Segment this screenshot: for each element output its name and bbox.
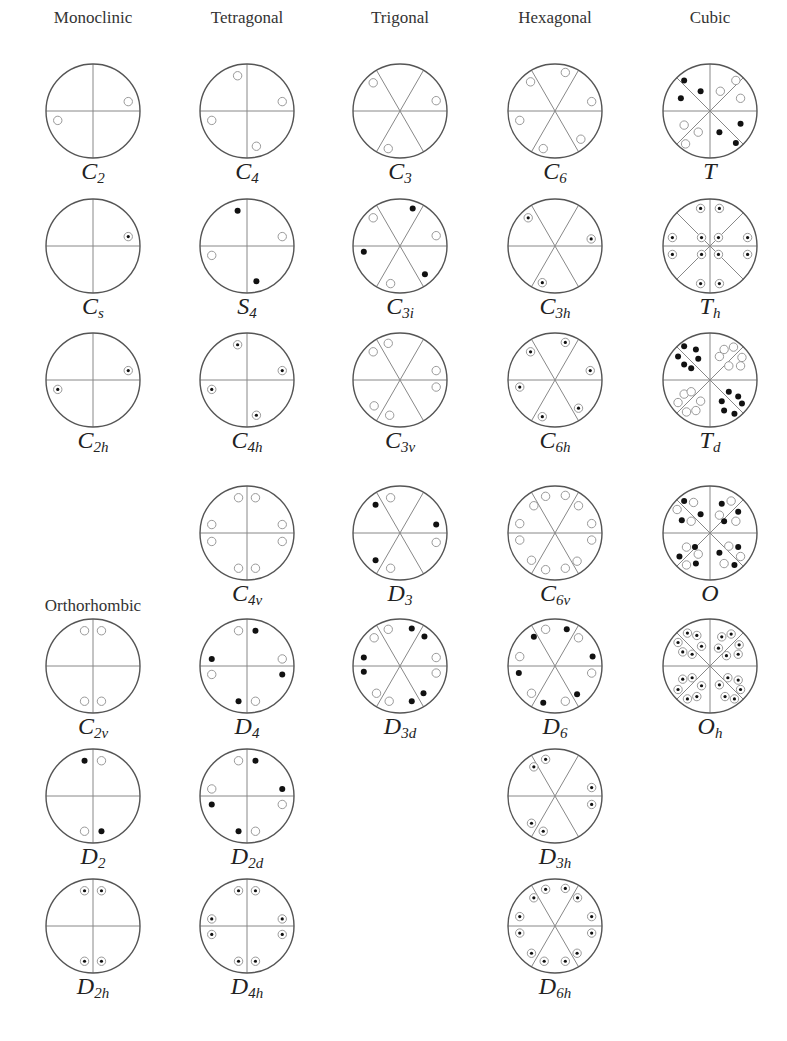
stereogram-circle-icon: [500, 741, 610, 851]
label-subscript: 3: [404, 170, 412, 186]
stereogram-circle-icon: [192, 871, 302, 981]
label-symbol: S: [237, 293, 249, 319]
stereogram-c2h: C2h: [38, 325, 148, 475]
label-symbol: D: [81, 843, 98, 869]
stereogram-c3i: C3i: [345, 191, 455, 341]
heading-hexagonal: Hexagonal: [518, 8, 592, 28]
stereogram-circle-icon: [192, 741, 302, 851]
stereogram-circle-icon: [345, 325, 455, 435]
label-symbol: C: [385, 427, 401, 453]
label-subscript: 6v: [556, 592, 570, 608]
stereogram-d2d: D2d: [192, 741, 302, 891]
heading-trigonal: Trigonal: [371, 8, 429, 28]
stereogram-td: Td: [655, 325, 765, 475]
label-subscript: 4: [251, 170, 259, 186]
stereogram-circle-icon: [38, 611, 148, 721]
label-symbol: C: [231, 427, 247, 453]
label-symbol: C: [232, 580, 248, 606]
point-group-label: C2v: [38, 713, 148, 742]
stereogram-c3v: C3v: [345, 325, 455, 475]
stereogram-d4: D4: [192, 611, 302, 761]
stereogram-circle-icon: [655, 325, 765, 435]
label-symbol: C: [386, 293, 402, 319]
heading-tetragonal: Tetragonal: [211, 8, 283, 28]
point-group-label: C6v: [500, 580, 610, 609]
point-group-label: C4v: [192, 580, 302, 609]
label-subscript: 3h: [556, 855, 571, 871]
label-subscript: 4v: [248, 592, 262, 608]
stereogram-d3h: D3h: [500, 741, 610, 891]
point-group-label: Cs: [38, 293, 148, 322]
heading-cubic: Cubic: [690, 8, 731, 28]
stereogram-circle-icon: [38, 871, 148, 981]
stereogram-c4: C4: [192, 56, 302, 206]
stereogram-circle-icon: [38, 325, 148, 435]
label-symbol: C: [235, 158, 251, 184]
label-symbol: D: [231, 843, 248, 869]
label-symbol: D: [543, 713, 560, 739]
label-subscript: h: [715, 725, 723, 741]
label-subscript: 3v: [401, 439, 415, 455]
point-group-label: C4: [192, 158, 302, 187]
label-subscript: 3d: [401, 725, 416, 741]
point-group-label: D6: [500, 713, 610, 742]
label-subscript: 2: [97, 170, 105, 186]
label-symbol: C: [388, 158, 404, 184]
label-symbol: D: [539, 973, 556, 999]
point-group-label: S4: [192, 293, 302, 322]
point-group-label: C3h: [500, 293, 610, 322]
point-group-label: D2d: [192, 843, 302, 872]
stereogram-circle-icon: [345, 611, 455, 721]
stereogram-th: Th: [655, 191, 765, 341]
label-subscript: d: [713, 439, 721, 455]
label-subscript: 4h: [248, 439, 263, 455]
stereogram-circle-icon: [345, 191, 455, 301]
label-symbol: D: [235, 713, 252, 739]
label-subscript: 2d: [248, 855, 263, 871]
stereogram-c2: C2: [38, 56, 148, 206]
stereogram-c4h: C4h: [192, 325, 302, 475]
label-subscript: h: [713, 305, 721, 321]
stereogram-c6h: C6h: [500, 325, 610, 475]
stereogram-d2h: D2h: [38, 871, 148, 1021]
stereogram-circle-icon: [500, 56, 610, 166]
stereogram-d6: D6: [500, 611, 610, 761]
label-symbol: D: [384, 713, 401, 739]
point-group-label: D6h: [500, 973, 610, 1002]
stereogram-circle-icon: [38, 56, 148, 166]
stereogram-d4h: D4h: [192, 871, 302, 1021]
point-group-label: C2h: [38, 427, 148, 456]
stereogram-circle-icon: [38, 741, 148, 851]
stereogram-c2v: C2v: [38, 611, 148, 761]
point-group-label: C3i: [345, 293, 455, 322]
label-symbol: C: [539, 427, 555, 453]
label-subscript: 6: [560, 725, 568, 741]
label-symbol: D: [539, 843, 556, 869]
stereogram-circle-icon: [192, 478, 302, 588]
stereogram-cs: Cs: [38, 191, 148, 341]
stereogram-circle-icon: [500, 325, 610, 435]
point-group-label: C4h: [192, 427, 302, 456]
point-group-label: T: [655, 158, 765, 185]
point-group-label: D4: [192, 713, 302, 742]
stereogram-circle-icon: [655, 56, 765, 166]
stereogram-circle-icon: [655, 191, 765, 301]
stereogram-c3: C3: [345, 56, 455, 206]
label-symbol: T: [703, 158, 716, 184]
label-subscript: 4h: [248, 985, 263, 1001]
stereogram-c6: C6: [500, 56, 610, 206]
label-symbol: D: [77, 973, 94, 999]
stereogram-circle-icon: [192, 56, 302, 166]
point-group-label: C6h: [500, 427, 610, 456]
stereogram-oh: Oh: [655, 611, 765, 761]
label-symbol: C: [539, 293, 555, 319]
label-symbol: O: [701, 580, 718, 606]
stereogram-s4: S4: [192, 191, 302, 341]
point-group-label: C3v: [345, 427, 455, 456]
label-subscript: 2: [98, 855, 106, 871]
stereogram-c3h: C3h: [500, 191, 610, 341]
stereogram-circle-icon: [500, 611, 610, 721]
stereogram-d3d: D3d: [345, 611, 455, 761]
point-group-label: D2: [38, 843, 148, 872]
label-symbol: C: [81, 158, 97, 184]
